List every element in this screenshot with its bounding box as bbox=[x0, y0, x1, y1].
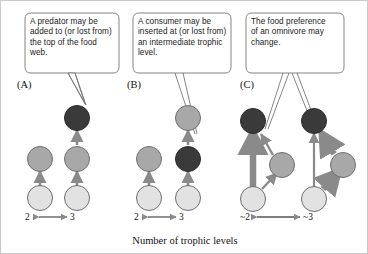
level-label-b-from: 2 bbox=[134, 212, 139, 222]
node-producer-right bbox=[176, 186, 201, 211]
level-label-a-from: 2 bbox=[25, 212, 30, 222]
node-producer-left bbox=[137, 186, 162, 211]
node-intermediate-left bbox=[270, 153, 295, 178]
level-label-a-to: 3 bbox=[70, 212, 75, 222]
panel-letter-b: (B) bbox=[127, 79, 141, 90]
node-consumer-left bbox=[28, 147, 53, 172]
callout-text-c: The food preference of an omnivore may c… bbox=[251, 17, 331, 48]
panel-a-nodes bbox=[28, 106, 90, 211]
axis-caption: Number of trophic levels bbox=[1, 235, 368, 246]
node-producer-right bbox=[302, 187, 327, 212]
panel-letter-a: (A) bbox=[17, 79, 32, 90]
node-omnivore-left bbox=[241, 109, 266, 134]
panel-c-left-nodes bbox=[241, 109, 295, 212]
node-consumer-right bbox=[65, 147, 90, 172]
node-producer-left bbox=[241, 187, 266, 212]
trophic-levels-figure: A predator may be added to (or lost from… bbox=[0, 0, 368, 254]
node-producer-right bbox=[65, 186, 90, 211]
callout-text-a: A predator may be added to (or lost from… bbox=[30, 17, 116, 59]
node-predator-right bbox=[176, 106, 201, 131]
callout-text-b: A consumer may be inserted at (or lost f… bbox=[138, 17, 228, 59]
node-predator-added bbox=[65, 106, 90, 131]
level-label-c-to: ~3 bbox=[303, 212, 313, 222]
node-omnivore-right bbox=[302, 109, 327, 134]
node-producer-left bbox=[28, 186, 53, 211]
node-intermediate-right bbox=[331, 153, 356, 178]
panel-c-right-nodes bbox=[302, 109, 356, 212]
node-consumer-inserted bbox=[176, 147, 201, 172]
panel-letter-c: (C) bbox=[240, 79, 254, 90]
panel-b-nodes bbox=[137, 106, 201, 211]
level-label-b-to: 3 bbox=[179, 212, 184, 222]
level-label-c-from: ~2 bbox=[240, 212, 250, 222]
node-consumer-left bbox=[137, 147, 162, 172]
